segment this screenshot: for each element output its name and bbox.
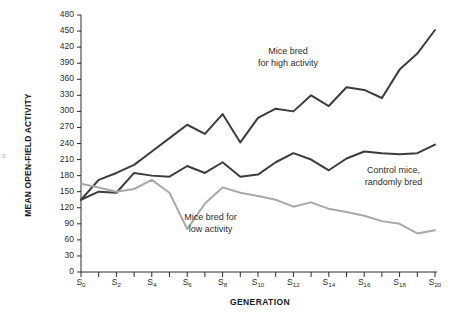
x-tick-subscript: 16 [364,281,371,288]
chart-container: s MEAN OPEN-FIELD ACTIVITY 4804504203903… [0,0,457,320]
y-tick-label: 120 [44,202,74,212]
x-tick-base: S [287,277,293,287]
x-tick-subscript: 10 [257,281,264,288]
annotation-control-line2: randomly bred [336,177,451,189]
y-tick-label: 30 [44,250,74,260]
x-tick-label: S6 [175,277,199,287]
x-tick-label: S0 [69,277,93,287]
y-tick-label: 60 [44,234,74,244]
x-tick-base: S [358,277,364,287]
x-tick-subscript: 6 [188,281,191,288]
y-tick-label: 420 [44,41,74,51]
x-tick-subscript: 14 [328,281,335,288]
x-tick-subscript: 0 [82,281,85,288]
annotation-control: Control mice, randomly bred [336,165,451,188]
stray-mark-left: s [2,152,6,159]
y-tick-label: 300 [44,105,74,115]
x-tick-label: S18 [388,277,412,287]
x-tick-label: S10 [246,277,270,287]
y-tick-label: 480 [44,9,74,19]
y-tick-label: 210 [44,154,74,164]
y-tick-label: 390 [44,57,74,67]
x-tick-subscript: 8 [224,281,227,288]
x-tick-subscript: 4 [153,281,156,288]
annotation-low-line2: low activity [158,224,263,236]
x-tick-label: S14 [317,277,341,287]
x-tick-subscript: 2 [118,281,121,288]
y-tick-label: 360 [44,73,74,83]
x-tick-subscript: 18 [399,281,406,288]
x-tick-base: S [218,277,224,287]
annotation-high-activity: Mice bred for high activity [228,46,348,69]
x-tick-subscript: 12 [293,281,300,288]
y-tick-label: 0 [44,266,74,276]
x-tick-subscript: 20 [434,281,441,288]
x-tick-label: S12 [281,277,305,287]
x-tick-label: S2 [104,277,128,287]
annotation-high-line2: for high activity [228,58,348,70]
annotation-high-line1: Mice bred [228,46,348,58]
y-tick-label: 270 [44,121,74,131]
x-tick-label: S20 [423,277,447,287]
x-tick-label: S8 [211,277,235,287]
y-tick-label: 240 [44,138,74,148]
y-axis-title: MEAN OPEN-FIELD ACTIVITY [23,65,33,245]
x-tick-base: S [112,277,118,287]
x-axis-title: GENERATION [80,297,440,307]
annotation-low-activity: Mice bred for low activity [158,212,263,235]
y-tick-label: 90 [44,218,74,228]
x-tick-label: S4 [140,277,164,287]
x-tick-label: S16 [352,277,376,287]
y-tick-label: 150 [44,186,74,196]
y-tick-label: 180 [44,170,74,180]
y-tick-label: 330 [44,89,74,99]
annotation-control-line1: Control mice, [336,165,451,177]
annotation-low-line1: Mice bred for [158,212,263,224]
y-tick-label: 450 [44,25,74,35]
